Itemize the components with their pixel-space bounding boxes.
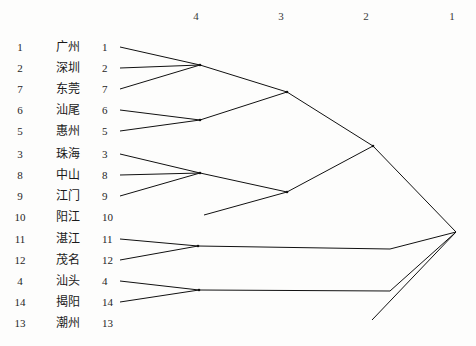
leaf-rank: 13	[8, 312, 32, 334]
dendrogram-edge	[287, 146, 373, 192]
scale-header-2: 2	[356, 10, 376, 22]
leaf-row: 11 湛江 11	[0, 228, 180, 250]
leaf-row: 9 江门 9	[0, 185, 180, 207]
leaf-rank: 11	[8, 228, 32, 250]
leaf-rank: 14	[8, 291, 32, 313]
dendrogram-merge-node	[199, 172, 202, 175]
leaf-rank: 10	[8, 206, 32, 228]
leaf-id: 11	[102, 228, 124, 250]
dendrogram-merge-node	[286, 191, 289, 194]
leaf-city-name: 东莞	[40, 78, 96, 100]
leaf-city-name: 茂名	[40, 249, 96, 271]
leaf-rank: 7	[8, 78, 32, 100]
leaf-id: 4	[102, 270, 124, 292]
leaf-city-name: 广州	[40, 36, 96, 58]
scale-header-1: 1	[442, 10, 462, 22]
dendrogram-figure: 4 3 2 1 1 广州 1 2 深圳 2 7 东莞 7 6 汕尾 6 5 惠州…	[0, 0, 476, 346]
dendrogram-edge	[199, 232, 456, 291]
scale-header-3: 3	[271, 10, 291, 22]
dendrogram-merge-node	[198, 289, 201, 292]
leaf-city-name: 惠州	[40, 120, 96, 142]
leaf-rank: 8	[8, 164, 32, 186]
leaf-rank: 1	[8, 36, 32, 58]
leaf-city-name: 汕头	[40, 270, 96, 292]
leaf-city-name: 潮州	[40, 312, 96, 334]
leaf-row: 10 阳江 10	[0, 206, 180, 228]
leaf-row: 12 茂名 12	[0, 249, 180, 271]
leaf-rank: 5	[8, 120, 32, 142]
dendrogram-edge	[372, 232, 456, 320]
leaf-id: 8	[102, 164, 124, 186]
dendrogram-merge-node	[197, 245, 200, 248]
dendrogram-merge-node	[372, 145, 375, 148]
leaf-id: 5	[102, 120, 124, 142]
leaf-id: 2	[102, 57, 124, 79]
dendrogram-edge	[200, 173, 287, 192]
leaf-id: 1	[102, 36, 124, 58]
leaf-rank: 12	[8, 249, 32, 271]
leaf-rank: 4	[8, 270, 32, 292]
leaf-row: 7 东莞 7	[0, 78, 180, 100]
leaf-row: 5 惠州 5	[0, 120, 180, 142]
leaf-city-name: 汕尾	[40, 99, 96, 121]
leaf-id: 3	[102, 143, 124, 165]
dendrogram-edge	[287, 92, 373, 146]
dendrogram-edge	[200, 92, 287, 120]
dendrogram-merge-node	[199, 64, 202, 67]
leaf-city-name: 中山	[40, 164, 96, 186]
dendrogram-merge-node	[286, 91, 289, 94]
dendrogram-edge	[198, 232, 456, 249]
scale-header-4: 4	[186, 10, 206, 22]
leaf-id: 14	[102, 291, 124, 313]
leaf-id: 10	[102, 206, 124, 228]
leaf-row: 3 珠海 3	[0, 143, 180, 165]
leaf-rank: 3	[8, 143, 32, 165]
dendrogram-edge	[204, 192, 287, 215]
leaf-rank: 9	[8, 185, 32, 207]
leaf-row: 14 揭阳 14	[0, 291, 180, 313]
leaf-row: 13 潮州 13	[0, 312, 180, 334]
leaf-id: 7	[102, 78, 124, 100]
leaf-city-name: 湛江	[40, 228, 96, 250]
leaf-id: 13	[102, 312, 124, 334]
leaf-city-name: 深圳	[40, 57, 96, 79]
leaf-id: 6	[102, 99, 124, 121]
dendrogram-edge	[373, 146, 456, 232]
leaf-row: 8 中山 8	[0, 164, 180, 186]
leaf-id: 12	[102, 249, 124, 271]
leaf-rank: 2	[8, 57, 32, 79]
leaf-row: 2 深圳 2	[0, 57, 180, 79]
leaf-city-name: 珠海	[40, 143, 96, 165]
leaf-row: 4 汕头 4	[0, 270, 180, 292]
leaf-rank: 6	[8, 99, 32, 121]
leaf-row: 1 广州 1	[0, 36, 180, 58]
leaf-city-name: 阳江	[40, 206, 96, 228]
leaf-row: 6 汕尾 6	[0, 99, 180, 121]
dendrogram-merge-node	[199, 119, 202, 122]
dendrogram-edge	[200, 65, 287, 92]
leaf-city-name: 揭阳	[40, 291, 96, 313]
leaf-city-name: 江门	[40, 185, 96, 207]
leaf-id: 9	[102, 185, 124, 207]
